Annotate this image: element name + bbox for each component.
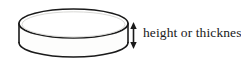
height-or-thickness-label: height or thickness bbox=[143, 25, 241, 40]
double-headed-vertical-arrow bbox=[130, 22, 136, 49]
cylinder-top-ellipse bbox=[19, 9, 128, 38]
arrow-head-up-icon bbox=[130, 22, 136, 29]
geometry-figure: height or thickness bbox=[0, 0, 241, 66]
arrow-head-down-icon bbox=[130, 42, 136, 49]
